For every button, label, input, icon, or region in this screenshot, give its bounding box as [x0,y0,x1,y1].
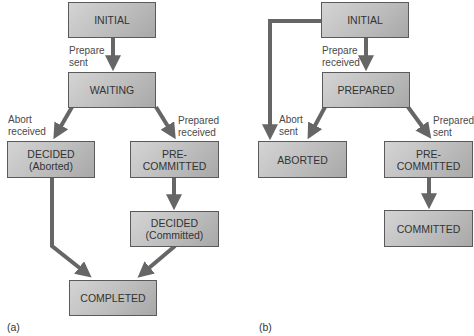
state-label: DECIDED [151,217,198,229]
state-label: COMMITTED [397,223,461,235]
state-label: PRE- [416,148,441,160]
transition-label-abort-sent: Abort sent [279,114,303,137]
transition-label-prepare-received: Prepare received [322,45,360,68]
state-decided-committed: DECIDED (Committed) [130,211,219,247]
state-sublabel: (Aborted) [29,160,73,172]
transition-label-abort-received: Abort received [8,114,46,137]
transition-label-prepared-sent: Prepared sent [433,115,474,138]
state-label: COMMITTED [143,160,207,172]
state-label: COMPLETED [80,292,145,304]
state-label: INITIAL [94,14,130,26]
state-precommitted-b: PRE- COMMITTED [384,141,473,178]
state-waiting: WAITING [68,72,156,108]
caption-a: (a) [7,321,20,333]
state-label: ABORTED [277,154,328,166]
state-label: PREPARED [338,84,395,96]
state-label: PRE- [162,148,187,160]
state-initial-a: INITIAL [68,2,156,38]
state-initial-b: INITIAL [321,2,409,38]
state-prepared: PREPARED [322,72,410,108]
state-committed: COMMITTED [384,210,473,247]
state-label: INITIAL [347,14,383,26]
state-aborted: ABORTED [258,141,347,178]
state-label: DECIDED [27,148,74,160]
state-sublabel: (Committed) [146,229,204,241]
state-decided-aborted: DECIDED (Aborted) [7,141,95,178]
transition-label-prepare-sent: Prepare sent [69,45,105,68]
caption-b: (b) [259,321,272,333]
transition-label-prepared-received: Prepared received [178,115,219,138]
state-completed: COMPLETED [69,280,157,316]
state-label: WAITING [90,84,135,96]
state-precommitted-a: PRE- COMMITTED [130,141,219,178]
state-label: COMMITTED [397,160,461,172]
